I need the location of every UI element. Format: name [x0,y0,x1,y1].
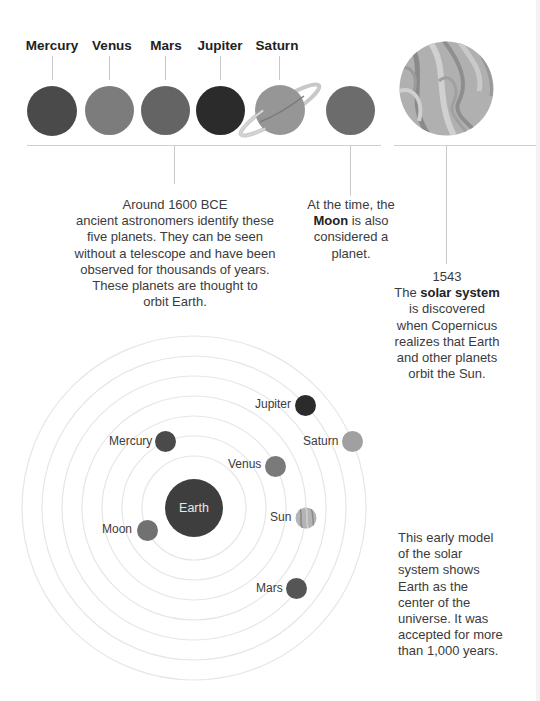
orbit-label-venus: Venus [228,457,261,471]
caption-line: center of the [398,595,528,611]
orbit-mars-icon [286,578,307,599]
caption-line: accepted for more [398,627,528,643]
page-edge [536,0,540,701]
caption-line: This early model [398,530,528,546]
orbit-jupiter-icon [295,395,316,416]
caption-line: Earth as the [398,579,528,595]
orbit-label-sun: Sun [270,510,291,524]
caption-line: of the solar [398,546,528,562]
earth-label: Earth [179,501,209,515]
orbit-label-mercury: Mercury [109,434,152,448]
orbit-venus-icon [265,456,286,477]
model-caption: This early model of the solar system sho… [398,530,528,660]
caption-line: universe. It was [398,611,528,627]
caption-line: than 1,000 years. [398,643,528,659]
orbit-label-saturn: Saturn [303,434,338,448]
orbit-label-moon: Moon [102,522,132,536]
orbit-saturn-icon [342,431,363,452]
orbit-label-jupiter: Jupiter [255,397,291,411]
orbit-moon-icon [137,520,158,541]
caption-line: system shows [398,562,528,578]
orbit-label-mars: Mars [256,581,283,595]
orbit-mercury-icon [155,431,176,452]
